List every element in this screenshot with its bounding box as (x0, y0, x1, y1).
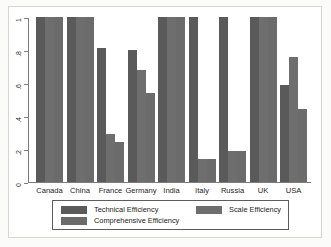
y-axis-tick-label: .4 (16, 117, 23, 123)
bar (76, 17, 85, 182)
x-axis-label: China (70, 185, 90, 197)
bar (289, 57, 298, 182)
bar (67, 17, 76, 182)
x-axis-labels: CanadaChinaFranceGermanyIndiaItalyRussia… (28, 185, 311, 197)
legend-swatch-comprehensive-efficiency (61, 217, 87, 225)
bar-group (36, 18, 63, 182)
legend-row-1: Technical Efficiency Scale Efficiency (57, 204, 284, 215)
bar (115, 142, 124, 182)
bar (198, 159, 207, 182)
y-axis-tick-label: .8 (16, 51, 23, 57)
bar-group (219, 18, 246, 182)
bar-group (280, 18, 307, 182)
bar-groups (30, 18, 311, 182)
bar (298, 109, 307, 182)
bar-group (97, 18, 124, 182)
y-axis-tick-label: 1 (16, 18, 23, 22)
bar (268, 17, 277, 182)
bar (189, 17, 198, 182)
y-axis-tick-label: 0 (16, 183, 23, 187)
bar (54, 17, 63, 182)
plot-area (28, 18, 311, 183)
bar-group (250, 18, 277, 182)
chart-legend: Technical Efficiency Scale Efficiency Co… (52, 200, 289, 230)
bar (237, 151, 246, 182)
bar-group (67, 18, 94, 182)
bar (219, 17, 228, 182)
legend-label-scale-efficiency: Scale Efficiency (229, 205, 281, 214)
bar-group (128, 18, 155, 182)
bar (85, 17, 94, 182)
bar (259, 17, 268, 182)
legend-label-technical-efficiency: Technical Efficiency (94, 205, 158, 214)
bar (280, 85, 289, 182)
bar-group (158, 18, 185, 182)
x-axis-label: Canada (36, 185, 63, 197)
legend-row-2: Comprehensive Efficiency (57, 215, 284, 226)
bar (207, 159, 216, 182)
bar (128, 50, 137, 182)
bar (176, 17, 185, 182)
x-axis-label: Italy (195, 185, 209, 197)
bar (137, 70, 146, 182)
bar (45, 17, 54, 182)
x-axis-label: USA (286, 185, 302, 197)
bar (146, 93, 155, 182)
bar (106, 134, 115, 182)
bar (97, 48, 106, 182)
bar (158, 17, 167, 182)
bar-group (189, 18, 216, 182)
bar (36, 17, 45, 182)
legend-label-comprehensive-efficiency: Comprehensive Efficiency (94, 216, 179, 225)
legend-entry-scale-efficiency: Scale Efficiency (192, 205, 281, 214)
y-axis-tick-label: .6 (16, 84, 23, 90)
legend-swatch-technical-efficiency (61, 206, 87, 214)
legend-entry-technical-efficiency: Technical Efficiency (57, 205, 192, 214)
bar (228, 151, 237, 182)
legend-entry-comprehensive-efficiency: Comprehensive Efficiency (57, 216, 192, 225)
y-axis-tick-label: .2 (16, 150, 23, 156)
x-axis-label: Germany (125, 185, 156, 197)
x-axis-label: UK (258, 185, 269, 197)
y-axis-labels: 0.2.4.6.81 (24, 18, 25, 183)
chart-figure: 0.2.4.6.81 CanadaChinaFranceGermanyIndia… (0, 0, 331, 247)
bar (250, 17, 259, 182)
legend-swatch-scale-efficiency (196, 206, 222, 214)
x-axis-label: India (163, 185, 179, 197)
y-axis-tick (24, 183, 28, 184)
x-axis-label: Russia (221, 185, 244, 197)
x-axis-label: France (99, 185, 123, 197)
bar (167, 17, 176, 182)
